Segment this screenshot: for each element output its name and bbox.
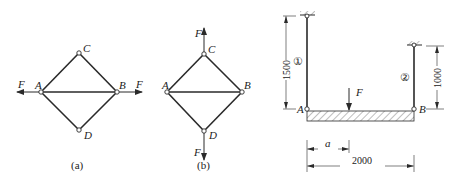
- rod-number-1: ①: [293, 55, 303, 67]
- node-label-b-B: B: [244, 79, 251, 91]
- rod-number-2: ②: [400, 71, 410, 83]
- node-label-beam-A: A: [296, 103, 304, 115]
- truss-figure-a: A B C D F F (a): [17, 42, 143, 172]
- caption-a: (a): [71, 159, 84, 172]
- force-label-a-right: F: [135, 78, 143, 90]
- force-label-a-left: F: [17, 78, 25, 90]
- dimension-label-a: a: [325, 137, 331, 149]
- node-label-a-A: A: [34, 79, 42, 91]
- rigid-beam: [307, 111, 414, 121]
- node-label-a-B: B: [119, 79, 126, 91]
- force-label-b-bottom: F: [193, 146, 201, 158]
- diagram-canvas: A B C D F F (a) A B C D F F (b): [0, 0, 458, 190]
- node-label-beam-B: B: [419, 103, 426, 115]
- node-label-b-D: D: [208, 129, 217, 141]
- node-label-a-C: C: [83, 42, 91, 54]
- truss-members-b: [167, 54, 242, 131]
- node-label-b-A: A: [161, 79, 169, 91]
- caption-b: (b): [197, 159, 210, 172]
- force-label-b-top: F: [194, 27, 202, 39]
- dimension-label-1000: 1000: [432, 68, 443, 88]
- beam-figure: F A B ① ② 1500 1000 a: [281, 11, 444, 172]
- force-label-beam: F: [355, 86, 363, 98]
- dimension-label-2000: 2000: [352, 155, 372, 166]
- truss-members-a: [41, 53, 117, 130]
- node-label-b-C: C: [208, 43, 216, 55]
- node-label-a-D: D: [83, 129, 92, 141]
- dimension-label-1500: 1500: [281, 60, 292, 80]
- truss-figure-b: A B C D F F (b): [161, 27, 251, 172]
